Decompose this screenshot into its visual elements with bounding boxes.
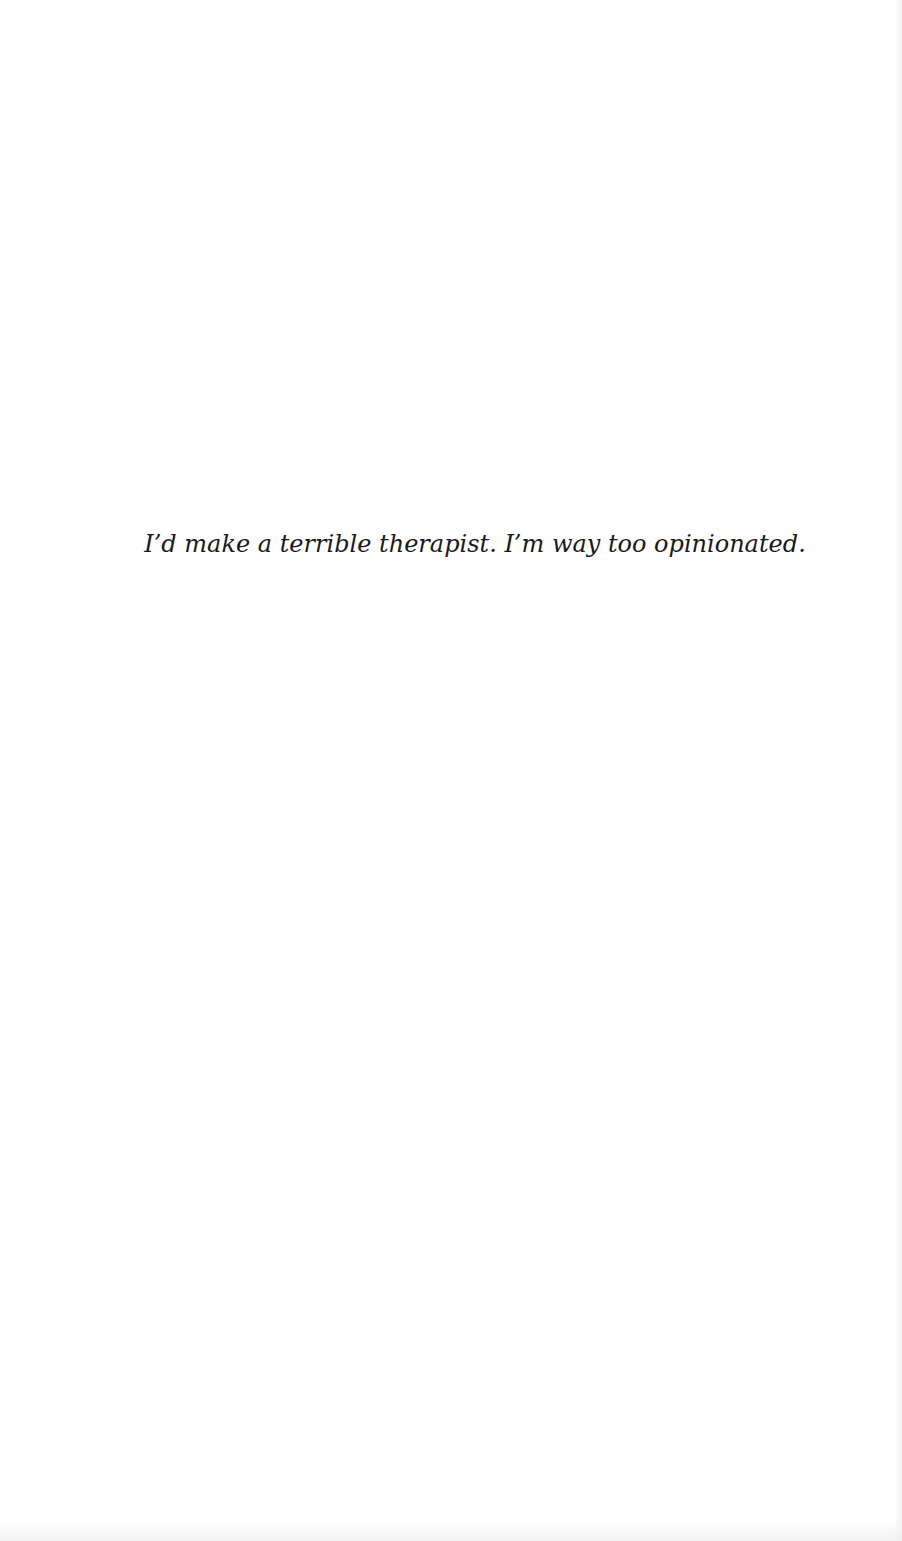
epigraph-text: I’d make a terrible therapist. I’m way t… [144, 524, 806, 564]
book-page: I’d make a terrible therapist. I’m way t… [0, 0, 902, 1541]
scan-edge-shadow [894, 0, 902, 1541]
scan-bottom-artifact [0, 1519, 902, 1541]
epigraph: I’d make a terrible therapist. I’m way t… [0, 524, 902, 564]
